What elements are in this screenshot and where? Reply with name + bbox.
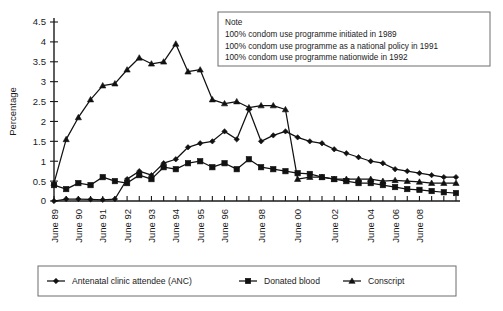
data-point-marker (319, 141, 324, 146)
y-tick-label: 0 (41, 195, 46, 206)
data-point-marker (124, 180, 129, 185)
data-point-marker (100, 174, 105, 179)
x-tick-label: June 90 (73, 209, 84, 243)
data-point-marker (380, 161, 385, 166)
data-point-marker (271, 166, 276, 171)
legend-item-1[interactable]: Antenatal clinic attendee (ANC) (47, 276, 192, 286)
note-line: 100% condom use programme as a national … (225, 42, 438, 51)
data-point-marker (51, 198, 56, 203)
x-tick-label: June 96 (219, 209, 230, 243)
data-point-marker (429, 172, 434, 177)
note-heading: Note (225, 18, 243, 27)
data-point-marker (283, 168, 288, 173)
y-tick-label: 2 (41, 116, 46, 127)
data-point-marker (453, 174, 458, 179)
legend-item-2[interactable]: Donated blood (239, 276, 320, 286)
x-tick-label: June 95 (195, 209, 206, 243)
x-tick-label: June 06 (390, 209, 401, 243)
series-line (54, 44, 456, 183)
data-point-marker (356, 155, 361, 160)
data-point-marker (173, 41, 179, 46)
legend-label: Donated blood (264, 276, 320, 286)
data-point-marker (344, 151, 349, 156)
data-point-marker (441, 190, 446, 195)
data-point-marker (405, 186, 410, 191)
data-point-marker (185, 161, 190, 166)
data-point-marker (137, 172, 142, 177)
data-point-marker (258, 164, 263, 169)
x-tick-label: June 02 (329, 209, 340, 243)
line-chart: 00.511.522.533.544.5PercentageJune 89Jun… (0, 0, 503, 311)
data-point-marker (368, 159, 373, 164)
x-tick-label: June 04 (365, 209, 376, 243)
data-point-marker (307, 139, 312, 144)
data-point-marker (112, 178, 117, 183)
x-tick-label: June 08 (414, 209, 425, 243)
data-point-marker (417, 187, 422, 192)
data-point-marker (392, 184, 397, 189)
y-axis-title: Percentage (7, 87, 18, 136)
data-point-marker (149, 176, 154, 181)
data-point-marker (271, 133, 276, 138)
data-point-marker (283, 129, 288, 134)
y-tick-label: 0.5 (33, 176, 46, 187)
y-tick-label: 2.5 (33, 96, 46, 107)
data-point-marker (209, 96, 215, 101)
x-tick-label: June 91 (97, 209, 108, 243)
x-tick-label: June 00 (292, 209, 303, 243)
data-point-marker (161, 164, 166, 169)
data-point-marker (136, 55, 142, 60)
x-tick-label: June 89 (49, 209, 60, 243)
data-point-marker (53, 278, 58, 283)
data-point-marker (429, 188, 434, 193)
data-point-marker (63, 186, 68, 191)
note-line: 100% condom use programme initiated in 1… (225, 30, 397, 39)
data-point-marker (76, 180, 81, 185)
series-2 (51, 157, 458, 196)
data-point-marker (295, 135, 300, 140)
y-tick-label: 3.5 (33, 56, 46, 67)
x-tick-label: June 92 (122, 209, 133, 243)
data-point-marker (222, 161, 227, 166)
data-point-marker (234, 98, 240, 103)
data-point-marker (246, 157, 251, 162)
x-tick-label: June 98 (256, 209, 267, 243)
y-tick-label: 3 (41, 76, 46, 87)
legend-label: Conscript (368, 276, 405, 286)
data-point-marker (234, 166, 239, 171)
x-tick-label: June 94 (170, 209, 181, 243)
data-point-marker (210, 164, 215, 169)
legend-label: Antenatal clinic attendee (ANC) (72, 276, 192, 286)
data-point-marker (197, 67, 203, 72)
y-tick-label: 1 (41, 156, 46, 167)
note-line: 100% condom use programme nationwide in … (225, 53, 408, 62)
data-point-marker (197, 159, 202, 164)
chart-figure: 00.511.522.533.544.5PercentageJune 89Jun… (0, 0, 503, 311)
data-point-marker (173, 166, 178, 171)
y-tick-label: 1.5 (33, 136, 46, 147)
data-point-marker (258, 139, 263, 144)
data-point-marker (392, 166, 397, 171)
data-point-marker (63, 136, 69, 141)
data-point-marker (197, 141, 202, 146)
data-point-marker (453, 190, 458, 195)
x-tick-label: June 93 (146, 209, 157, 243)
y-tick-label: 4.5 (33, 16, 46, 27)
data-point-marker (405, 168, 410, 173)
y-tick-label: 4 (41, 36, 46, 47)
data-point-marker (441, 174, 446, 179)
data-point-marker (245, 278, 250, 283)
data-point-marker (88, 182, 93, 187)
legend-item-3[interactable]: Conscript (343, 276, 405, 286)
data-point-marker (331, 147, 336, 152)
data-point-marker (417, 170, 422, 175)
